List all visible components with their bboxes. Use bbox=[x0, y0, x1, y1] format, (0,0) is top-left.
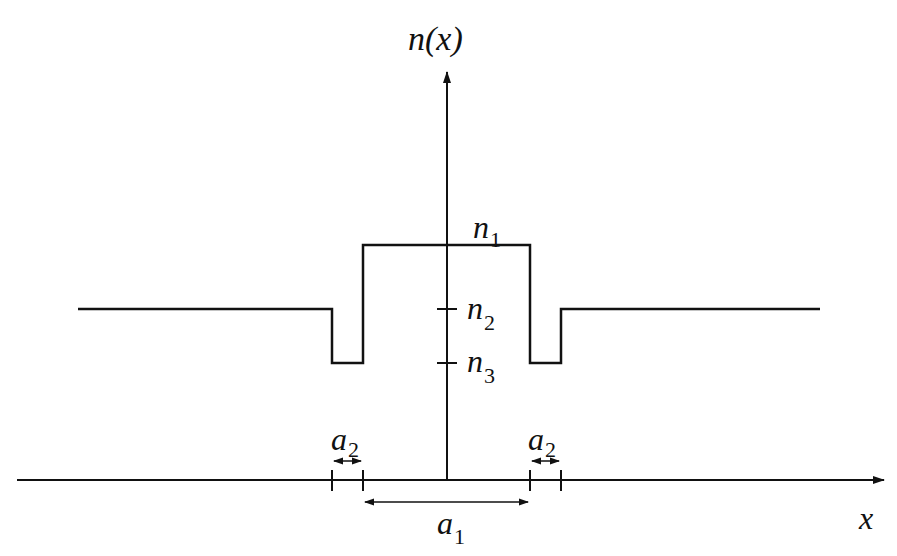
svg-text:n: n bbox=[467, 343, 483, 379]
index-profile-diagram: n(x) x n 1 n 2 n 3 a 2 a 2 a 1 bbox=[0, 0, 897, 556]
y-axis-label: n(x) bbox=[408, 20, 463, 58]
n2-label: n 2 bbox=[467, 290, 495, 335]
a2-left-label: a 2 bbox=[331, 421, 359, 462]
svg-text:n: n bbox=[473, 209, 489, 245]
x-axis-label: x bbox=[858, 500, 873, 536]
n3-label: n 3 bbox=[467, 343, 495, 388]
svg-text:n: n bbox=[467, 290, 483, 326]
index-profile-curve bbox=[78, 245, 820, 363]
svg-text:a: a bbox=[437, 505, 453, 541]
svg-text:3: 3 bbox=[484, 363, 495, 388]
svg-text:a: a bbox=[331, 421, 347, 457]
a1-label: a 1 bbox=[437, 505, 465, 549]
a2-right-label: a 2 bbox=[528, 421, 556, 462]
svg-text:2: 2 bbox=[545, 437, 556, 462]
svg-text:a: a bbox=[528, 421, 544, 457]
svg-text:2: 2 bbox=[348, 437, 359, 462]
svg-text:1: 1 bbox=[454, 524, 465, 549]
svg-text:2: 2 bbox=[484, 310, 495, 335]
svg-text:1: 1 bbox=[490, 227, 501, 252]
